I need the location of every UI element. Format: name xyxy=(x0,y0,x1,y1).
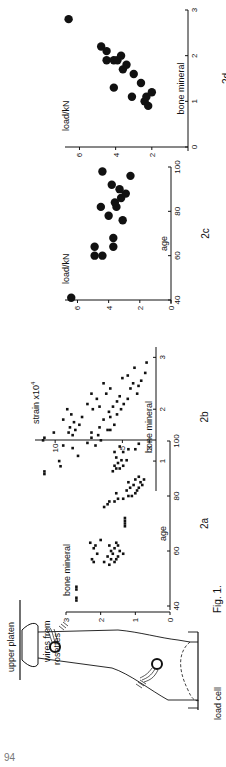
data-point xyxy=(64,15,72,23)
y-tick-label: 3 xyxy=(62,617,71,622)
data-point xyxy=(98,167,106,175)
data-point xyxy=(134,492,137,495)
data-point xyxy=(77,455,80,458)
data-point xyxy=(81,416,84,419)
data-point xyxy=(94,544,97,547)
data-point xyxy=(124,519,127,522)
data-point xyxy=(90,243,98,251)
data-point xyxy=(129,486,132,489)
data-point xyxy=(120,459,123,462)
data-point xyxy=(59,465,62,468)
data-point xyxy=(58,460,61,463)
data-point xyxy=(108,181,116,189)
data-point xyxy=(43,436,46,439)
y-tick-label: 2 xyxy=(148,152,157,157)
data-point xyxy=(98,405,101,408)
data-point xyxy=(94,444,97,447)
data-point xyxy=(126,398,129,401)
label-wires-line2: rosettes xyxy=(52,632,62,665)
y-axis-label: load/kN xyxy=(61,253,71,284)
figure-page: upper platen wires from rosettes load ce… xyxy=(0,0,226,767)
data-point xyxy=(126,374,129,377)
data-point xyxy=(113,423,116,426)
data-point xyxy=(138,475,141,478)
page-number: 94 xyxy=(4,752,15,763)
y-tick-label: 2 xyxy=(136,305,145,310)
data-point xyxy=(86,403,89,406)
data-point xyxy=(116,413,119,416)
data-point xyxy=(113,464,116,467)
data-point xyxy=(122,552,125,555)
data-point xyxy=(126,172,134,180)
data-point xyxy=(113,561,116,564)
data-point xyxy=(92,408,95,411)
data-point xyxy=(112,405,115,408)
x-tick-label: 100 xyxy=(173,160,182,174)
data-point xyxy=(105,392,108,395)
data-point xyxy=(124,517,127,520)
load-cell-cup-bottom xyxy=(188,700,198,708)
data-point xyxy=(144,102,152,110)
x-tick-label: 40 xyxy=(173,295,182,304)
data-point xyxy=(113,451,116,454)
y-tick-label: 0 xyxy=(167,305,176,310)
data-point xyxy=(109,243,117,251)
data-point xyxy=(120,408,123,411)
data-point xyxy=(67,431,70,434)
data-point xyxy=(97,203,105,211)
data-point xyxy=(128,93,136,101)
x-tick-label: 2 xyxy=(158,406,167,411)
data-point xyxy=(129,387,132,390)
data-point xyxy=(110,550,113,553)
data-point xyxy=(115,558,118,561)
data-point xyxy=(106,555,109,558)
data-point xyxy=(92,547,95,550)
data-point xyxy=(73,421,76,424)
data-point xyxy=(144,372,147,375)
data-point xyxy=(136,489,139,492)
label-load-cell: load cell xyxy=(213,687,223,720)
x-tick-label: 60 xyxy=(172,546,181,555)
data-point xyxy=(109,234,117,242)
data-point xyxy=(131,495,134,498)
data-point xyxy=(106,429,109,432)
data-point xyxy=(92,561,95,564)
data-point xyxy=(90,436,93,439)
data-point xyxy=(102,56,110,64)
data-point xyxy=(134,448,137,451)
rosette-lower-icon xyxy=(152,659,162,669)
data-point xyxy=(136,392,139,395)
data-point xyxy=(108,411,111,414)
data-point xyxy=(62,418,65,421)
data-point xyxy=(96,398,99,401)
x-tick-label: 3 xyxy=(190,7,199,12)
platen-dome xyxy=(22,623,38,666)
data-point xyxy=(62,444,65,447)
wires-lower xyxy=(140,668,158,682)
x-tick-label: 3 xyxy=(158,355,167,360)
data-point xyxy=(130,70,138,78)
x-axis-label: bone mineral xyxy=(144,401,154,453)
data-point xyxy=(124,522,127,525)
y-axis-label: bone mineral xyxy=(62,544,72,596)
panel-label: 2c xyxy=(200,228,211,239)
data-point xyxy=(75,596,78,599)
data-point xyxy=(138,486,141,489)
dashed-contour xyxy=(181,642,200,701)
data-point xyxy=(127,448,130,451)
label-upper-platen: upper platen xyxy=(6,622,16,672)
x-axis-label: bone mineral xyxy=(176,62,186,114)
data-point xyxy=(117,497,120,500)
data-point xyxy=(74,429,77,432)
data-point xyxy=(117,544,120,547)
data-point xyxy=(98,251,106,259)
figure-1-caption: Fig. 1. xyxy=(212,585,223,613)
x-tick-label: 100 xyxy=(172,434,181,448)
y-tick-label: 2 xyxy=(97,617,106,622)
data-point xyxy=(98,426,101,429)
x-tick-label: 1 xyxy=(190,99,199,104)
data-point xyxy=(90,431,93,434)
label-wires-line1: wires from xyxy=(42,620,52,663)
data-point xyxy=(127,481,130,484)
y-tick-label: 1 xyxy=(131,617,140,622)
